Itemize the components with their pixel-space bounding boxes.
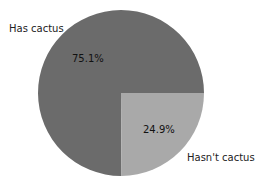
label-hasnt-cactus: Hasn't cactus bbox=[187, 152, 255, 163]
pct-hasnt-cactus: 24.9% bbox=[143, 124, 175, 135]
label-has-cactus: Has cactus bbox=[9, 23, 64, 34]
pie-chart: Has cactus 75.1% 24.9% Hasn't cactus bbox=[0, 0, 261, 186]
pct-has-cactus: 75.1% bbox=[72, 53, 104, 64]
